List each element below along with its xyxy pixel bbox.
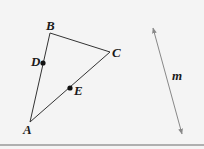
label-d: D xyxy=(30,54,41,69)
point-e xyxy=(67,85,72,90)
point-d xyxy=(40,60,45,65)
label-e: E xyxy=(73,83,83,98)
label-m: m xyxy=(172,68,182,83)
geometry-diagram: B C A D E m xyxy=(0,0,204,149)
label-b: B xyxy=(45,18,55,33)
label-a: A xyxy=(22,122,32,137)
label-c: C xyxy=(112,45,121,60)
